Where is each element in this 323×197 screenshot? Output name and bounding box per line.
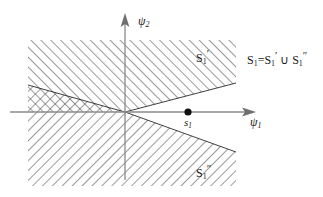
- point-s1-marker: [184, 108, 191, 115]
- equation-term2-base: S: [292, 53, 299, 67]
- figure-canvas: ψ2 ψ1 S1′ S1″ S1=S1′∪S1″ s1: [0, 0, 323, 197]
- diagram-svg: [0, 0, 323, 197]
- equation-union-symbol: ∪: [280, 53, 289, 67]
- equation-term1-prime: ′: [275, 49, 277, 61]
- region-label-s1-prime-mark: ′: [207, 47, 209, 59]
- region-label-s1-prime: S1′: [196, 48, 209, 66]
- set-union-equation: S1=S1′∪S1″: [247, 50, 307, 68]
- y-axis-label-sub: 2: [145, 20, 149, 29]
- region-label-s1-double-prime-mark: ″: [207, 162, 211, 174]
- equation-term2-double-prime: ″: [303, 49, 307, 61]
- x-axis-label: ψ1: [250, 116, 261, 130]
- equation-lhs-base: S: [247, 53, 254, 67]
- y-axis-label: ψ2: [138, 15, 149, 29]
- point-label-s1-sub: 1: [188, 122, 192, 130]
- region-label-s1-double-prime: S1″: [196, 163, 211, 181]
- region-label-s1-prime-base: S: [196, 51, 203, 65]
- region-label-s1-double-prime-base: S: [196, 166, 203, 180]
- x-axis-label-sub: 1: [257, 121, 261, 130]
- point-label-s1: s1: [184, 117, 192, 130]
